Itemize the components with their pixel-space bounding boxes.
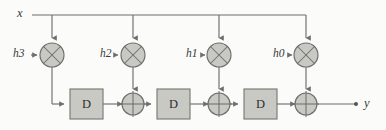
multiplier-h0 [294, 43, 318, 67]
delay-label-1: D [82, 98, 91, 111]
input-bus [32, 15, 306, 38]
diagram-canvas [0, 0, 386, 130]
coefficient-label-h0: h0 [273, 48, 285, 60]
input-label: x [17, 7, 23, 20]
adder-3 [293, 91, 319, 117]
delay-label-2: D [169, 98, 178, 111]
delay-label-3: D [256, 98, 265, 111]
coefficient-label-h2: h2 [100, 48, 112, 60]
filter-diagram: x y h3 h2 h1 h0 D D D [0, 0, 386, 130]
multiplier-h3 [40, 43, 64, 67]
coefficient-label-h3: h3 [13, 48, 25, 60]
coefficient-label-h1: h1 [186, 48, 198, 60]
multiplier-h2 [121, 43, 145, 67]
output-label: y [364, 97, 370, 110]
adder-2 [206, 91, 232, 117]
multiplier-h1 [207, 43, 231, 67]
adder-1 [120, 91, 146, 117]
